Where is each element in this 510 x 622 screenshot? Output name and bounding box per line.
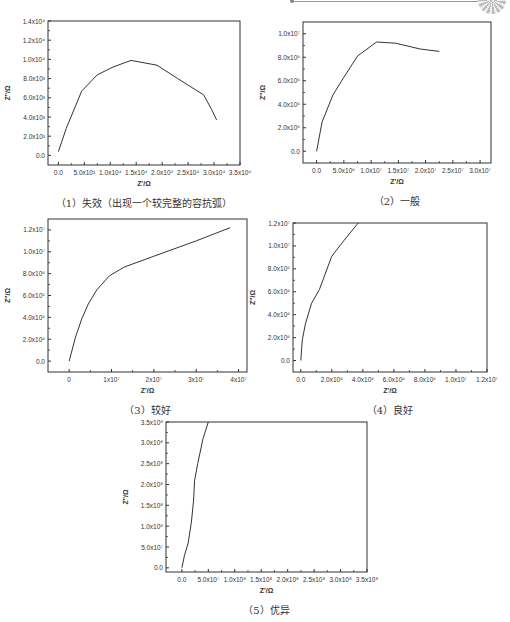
x-tick-label: 3.5x10⁸: [356, 576, 379, 583]
y-tick-label: 0.0: [36, 358, 45, 365]
y-tick-label: 1.0x10⁷: [23, 248, 46, 255]
y-tick-label: 0.0: [36, 152, 45, 159]
y-tick-label: 6.0x10³: [23, 94, 46, 101]
chart-5: 0.05.0x10⁷1.0x10⁸1.5x10⁸2.0x10⁸2.5x10⁸3.…: [120, 416, 381, 608]
y-tick-label: 3.5x10⁸: [141, 419, 164, 426]
x-tick-label: 2.0x10⁶: [321, 376, 344, 383]
nyquist-curve: [69, 228, 230, 361]
x-axis-label: Z'/Ω: [390, 178, 404, 185]
y-axis-label: Z''/Ω: [4, 85, 11, 101]
x-tick-label: 1.0x10⁷: [360, 167, 383, 174]
nyquist-curve: [317, 42, 440, 151]
y-tick-label: 0.0: [291, 148, 300, 155]
chart-4: 0.02.0x10⁶4.0x10⁶6.0x10⁶8.0x10⁶1.0x10⁷1.…: [247, 217, 501, 408]
y-tick-label: 4.0x10³: [23, 114, 46, 121]
y-tick-label: 0.0: [281, 357, 290, 364]
x-axis-label: Z'/Ω: [260, 587, 274, 594]
y-tick-label: 4.0x10⁶: [23, 314, 46, 321]
x-tick-label: 2.0x10⁴: [151, 169, 174, 176]
y-tick-label: 2.0x10⁶: [23, 336, 46, 343]
x-tick-label: 3x10⁷: [188, 376, 205, 383]
y-tick-label: 0.0: [154, 564, 163, 571]
y-tick-label: 4.0x10⁶: [278, 101, 301, 108]
x-tick-label: 0: [67, 376, 71, 383]
x-tick-label: 2.0x10⁸: [277, 576, 300, 583]
x-tick-label: 1.2x10⁷: [476, 376, 499, 383]
nyquist-curve: [58, 60, 216, 151]
x-tick-label: 1x10⁷: [103, 376, 120, 383]
x-tick-label: 3.0x10⁸: [329, 576, 352, 583]
x-tick-label: 1.0x10⁸: [224, 576, 247, 583]
y-tick-label: 1.0x10⁷: [268, 242, 291, 249]
y-tick-label: 2.0x10⁸: [141, 481, 164, 488]
x-tick-label: 1.0x10⁴: [99, 169, 122, 176]
y-tick-label: 2.5x10⁸: [141, 460, 164, 467]
x-tick-label: 2.5x10⁸: [303, 576, 326, 583]
y-tick-label: 2.0x10⁶: [268, 334, 291, 341]
plot-frame: [293, 223, 487, 372]
y-axis-label: Z''/Ω: [122, 489, 129, 505]
y-tick-label: 5.0x10⁷: [141, 544, 164, 551]
x-tick-label: 0.0: [312, 167, 321, 174]
plot-frame: [48, 219, 247, 372]
y-axis-label: Z''/Ω: [4, 288, 11, 304]
top-rule-dot: [290, 0, 294, 3]
x-tick-label: 0.0: [177, 576, 186, 583]
chart-caption: （4）良好: [367, 402, 413, 417]
x-tick-label: 3.5x10⁴: [229, 169, 252, 176]
x-tick-label: 2.0x10⁷: [415, 167, 438, 174]
circular-badge-icon: [478, 0, 506, 14]
y-tick-label: 2.0x10⁶: [278, 124, 301, 131]
x-tick-label: 3.0x10⁷: [469, 167, 492, 174]
chart-caption: （1）失效（出现一个较完整的容抗弧）: [56, 195, 232, 210]
y-tick-label: 6.0x10⁶: [278, 77, 301, 84]
x-tick-label: 5.0x10³: [73, 169, 96, 176]
x-tick-label: 4x10⁷: [230, 376, 247, 383]
y-tick-label: 8.0x10⁶: [278, 54, 301, 61]
x-tick-label: 1.0x10⁷: [445, 376, 468, 383]
y-tick-label: 2.0x10³: [23, 133, 46, 140]
y-tick-label: 1.2x10⁴: [23, 37, 46, 44]
y-tick-label: 1.0x10⁷: [278, 30, 301, 37]
x-axis-label: Z'/Ω: [383, 387, 397, 394]
y-axis-label: Z''/Ω: [259, 85, 266, 101]
y-tick-label: 1.5x10⁸: [141, 502, 164, 509]
y-tick-label: 8.0x10³: [23, 75, 46, 82]
top-rule: [292, 1, 482, 2]
nyquist-curve: [301, 223, 358, 361]
y-axis-label: Z''/Ω: [249, 290, 256, 306]
chart-caption: （3）较好: [124, 402, 170, 417]
y-tick-label: 1.2x10⁷: [23, 226, 46, 233]
y-tick-label: 8.0x10⁶: [268, 265, 291, 272]
nyquist-curve: [182, 422, 208, 568]
y-tick-label: 1.2x10⁷: [268, 220, 291, 227]
x-tick-label: 1.5x10⁴: [125, 169, 148, 176]
x-tick-label: 6.0x10⁶: [383, 376, 406, 383]
x-tick-label: 0.0: [296, 376, 305, 383]
x-tick-label: 5.0x10⁷: [197, 576, 220, 583]
x-tick-label: 2x10⁷: [146, 376, 163, 383]
chart-caption: （5）优异: [243, 602, 289, 617]
chart-caption: （2）一般: [374, 193, 420, 208]
x-tick-label: 5.0x10⁶: [333, 167, 356, 174]
y-tick-label: 6.0x10⁶: [268, 288, 291, 295]
x-tick-label: 0.0: [54, 169, 63, 176]
x-tick-label: 2.5x10⁷: [442, 167, 465, 174]
y-tick-label: 8.0x10⁶: [23, 270, 46, 277]
x-tick-label: 3.0x10⁴: [203, 169, 226, 176]
x-axis-label: Z'/Ω: [137, 180, 151, 187]
x-tick-label: 2.5x10⁴: [177, 169, 200, 176]
chart-3: 0.02.0x10⁶4.0x10⁶6.0x10⁶8.0x10⁶1.0x10⁷1.…: [2, 213, 261, 408]
plot-frame: [48, 21, 240, 165]
chart-1: 0.02.0x10³4.0x10³6.0x10³8.0x10³1.0x10⁴1.…: [2, 15, 254, 201]
y-tick-label: 6.0x10⁶: [23, 292, 46, 299]
x-tick-label: 8.0x10⁶: [414, 376, 437, 383]
chart-2: 0.02.0x10⁶4.0x10⁶6.0x10⁶8.0x10⁶1.0x10⁷0.…: [257, 16, 505, 199]
y-tick-label: 1.4x10⁴: [23, 18, 46, 25]
y-tick-label: 4.0x10⁶: [268, 311, 291, 318]
x-tick-label: 4.0x10⁶: [352, 376, 375, 383]
plot-frame: [166, 422, 367, 572]
x-tick-label: 1.5x10⁸: [250, 576, 273, 583]
x-axis-label: Z'/Ω: [141, 387, 155, 394]
y-tick-label: 3.0x10⁸: [141, 439, 164, 446]
